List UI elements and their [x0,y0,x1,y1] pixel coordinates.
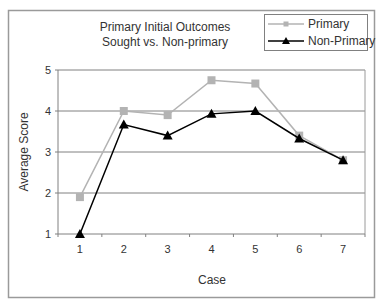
y-tick-label: 1 [45,228,51,240]
chart-title: Primary Initial OutcomesSought vs. Non-p… [100,20,231,49]
chart-title-line: Primary Initial Outcomes [100,20,231,34]
x-tick-label: 6 [296,243,302,255]
chart-border [9,11,375,298]
x-tick-label: 1 [77,243,83,255]
square-marker [251,80,259,88]
x-tick-label: 5 [252,243,258,255]
square-marker [208,76,216,84]
y-axis-label: Average Score [17,112,31,191]
legend-label: Non-Primary [308,34,375,48]
x-axis-label: Case [198,273,226,287]
x-tick-label: 4 [208,243,214,255]
x-tick-label: 3 [165,243,171,255]
x-tick-label: 2 [121,243,127,255]
square-marker [284,22,289,27]
square-marker [76,193,84,201]
legend-label: Primary [308,17,349,31]
y-tick-label: 2 [45,187,51,199]
y-tick-label: 4 [45,105,51,117]
square-marker [164,111,172,119]
line-chart: Primary Initial OutcomesSought vs. Non-p… [0,0,384,307]
x-tick-label: 7 [340,243,346,255]
y-tick-label: 5 [45,64,51,76]
square-marker [120,107,128,115]
legend: PrimaryNon-Primary [265,15,376,51]
chart-title-line: Sought vs. Non-primary [102,35,228,49]
y-tick-label: 3 [45,146,51,158]
